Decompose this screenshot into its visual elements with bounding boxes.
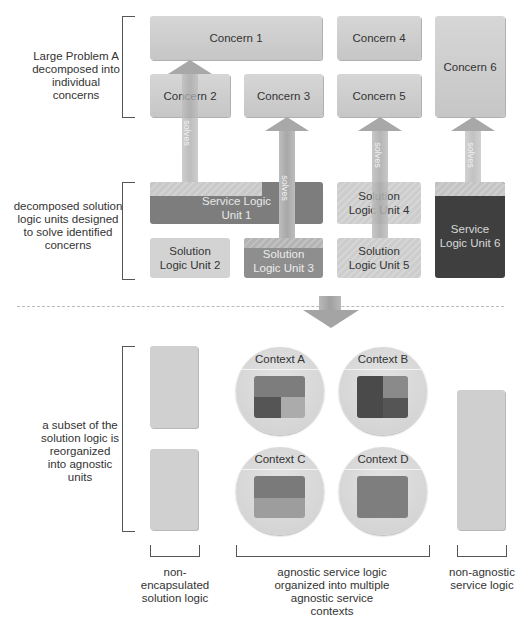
top-section-label: Large Problem A decomposed into individu… [30, 50, 122, 102]
bottom-section-bracket [122, 346, 135, 532]
context-d-circle: Context D [339, 447, 427, 535]
non-agnostic-logic [457, 390, 505, 530]
logic-block-bottom-left [254, 397, 281, 418]
logic-block-top [254, 376, 305, 397]
non-encapsulated-logic-lower [150, 449, 198, 530]
solution-logic-unit-5: Solution Logic Unit 5 [337, 238, 421, 278]
service-logic-unit-6: Service Logic Unit 6 [435, 182, 505, 278]
logic-block [357, 476, 408, 518]
arrow-head [358, 117, 402, 131]
context-c-logic [254, 476, 305, 518]
service-logic-unit-1: Service Logic Unit 1 [150, 182, 323, 224]
logic-block-bottom-right [383, 398, 408, 418]
middle-section-bracket [122, 182, 135, 280]
context-divider [339, 469, 427, 470]
context-divider [339, 369, 427, 370]
context-divider [236, 369, 324, 370]
logic-block-top [254, 476, 305, 498]
logic-block-left [357, 376, 383, 418]
arrow-shaft [319, 296, 341, 310]
arrow-head [303, 310, 359, 328]
solution-logic-unit-2: Solution Logic Unit 2 [150, 238, 230, 278]
context-c-circle: Context C [236, 447, 324, 535]
solves-label: solves [182, 120, 192, 146]
logic-block-bottom-right [281, 397, 305, 418]
non-agnostic-bracket [457, 545, 507, 557]
non-encapsulated-logic-upper [150, 346, 198, 428]
context-d-title: Context D [339, 453, 427, 465]
top-section-bracket [122, 16, 135, 118]
context-a-title: Context A [236, 353, 324, 365]
context-b-circle: Context B [339, 347, 427, 435]
section-divider [17, 306, 504, 307]
logic-block-bottom [254, 498, 305, 518]
context-divider [236, 469, 324, 470]
solution-logic-unit-3: Solution Logic Unit 3 [244, 238, 323, 278]
arrow-head [168, 60, 212, 74]
non-encapsulated-caption: non-encapsulated solution logic [132, 566, 218, 605]
agnostic-bracket [236, 545, 430, 557]
arrow-head [451, 117, 495, 131]
non-agnostic-caption: non-agnostic service logic [447, 566, 517, 592]
agnostic-caption: agnostic service logic organized into mu… [272, 566, 392, 618]
context-a-logic [254, 376, 305, 418]
concern-5: Concern 5 [337, 74, 421, 117]
unit-6-hatched-strip [435, 182, 505, 196]
concern-3: Concern 3 [244, 74, 323, 117]
context-b-logic [357, 376, 408, 418]
solves-label: solves [373, 142, 383, 168]
arrow-head [265, 117, 309, 131]
concern-4: Concern 4 [337, 16, 421, 60]
non-encapsulated-bracket [150, 545, 200, 557]
context-a-circle: Context A [236, 347, 324, 435]
context-c-title: Context C [236, 453, 324, 465]
concern-6: Concern 6 [435, 16, 505, 117]
logic-block-top-right [383, 376, 408, 398]
concern-1: Concern 1 [150, 16, 322, 60]
context-d-logic [357, 476, 408, 518]
middle-section-label: decomposed solution logic units designed… [12, 200, 124, 252]
context-b-title: Context B [339, 353, 427, 365]
solves-label: solves [466, 142, 476, 168]
solves-label: solves [280, 175, 290, 201]
bottom-section-label: a subset of the solution logic is reorga… [40, 419, 120, 484]
